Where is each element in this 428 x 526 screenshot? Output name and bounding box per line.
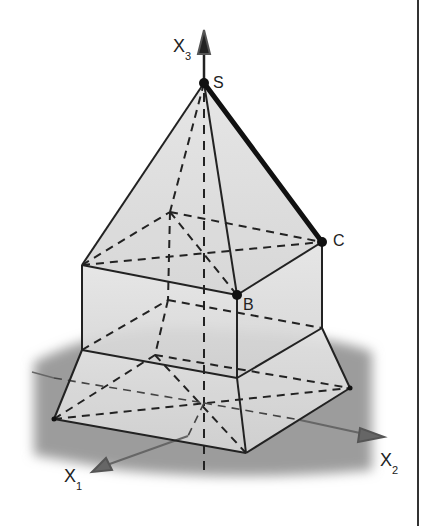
vertex-bottom-right [348, 386, 353, 391]
label-x1: X [64, 466, 76, 486]
label-b: B [243, 296, 254, 313]
label-x3-sub: 3 [185, 50, 191, 62]
geometry-diagram: S C B X 3 X 1 X 2 [0, 0, 428, 526]
label-x3: X [173, 36, 185, 56]
vertex-bottom-left [52, 417, 57, 422]
label-x2-sub: 2 [392, 464, 398, 476]
point-c-marker [317, 237, 327, 247]
label-s: S [213, 74, 224, 91]
label-c: C [333, 232, 345, 249]
label-x2: X [380, 450, 392, 470]
label-x1-sub: 1 [76, 480, 82, 492]
point-b-marker [232, 290, 242, 300]
x3-arrow-icon [198, 30, 210, 54]
point-s-marker [199, 78, 209, 88]
